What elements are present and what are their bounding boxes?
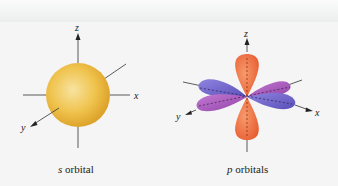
caption-text: orbitals	[233, 163, 269, 175]
s-orbital-caption: s orbital	[58, 163, 94, 175]
z-axis-arrow-icon	[245, 38, 250, 45]
p-orbitals-figure: z x y	[175, 28, 320, 152]
caption-text: orbital	[62, 163, 93, 175]
p-orbitals-caption: p orbitals	[227, 163, 268, 175]
orbital-diagram: z x y z x y	[0, 0, 338, 186]
x-axis-arrow-icon	[306, 108, 314, 113]
x-axis-label: x	[133, 90, 139, 101]
py-lobe-front	[197, 94, 247, 111]
y-axis-label: y	[175, 111, 181, 122]
z-axis-arrow-icon	[76, 33, 81, 40]
s-orbital-sphere	[46, 63, 110, 127]
px-lobe-front	[247, 93, 295, 109]
z-axis-label: z	[74, 22, 79, 33]
y-axis-line-back	[104, 64, 126, 79]
y-axis-label: y	[20, 122, 26, 133]
s-orbital-figure: z x y	[20, 22, 139, 148]
z-axis-label: z	[243, 28, 248, 39]
y-axis-arrow-icon	[30, 121, 38, 127]
y-axis-arrow-icon	[185, 111, 192, 116]
y-axis-line-back	[288, 80, 302, 85]
x-axis-label: x	[314, 107, 320, 118]
